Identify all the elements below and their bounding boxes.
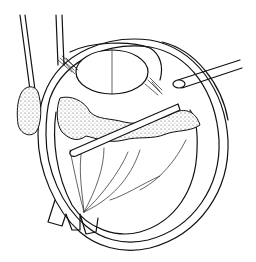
vitreous-base-stippled bbox=[57, 97, 200, 141]
surgical-probe-left-2 bbox=[56, 15, 64, 65]
sponge-tip bbox=[17, 87, 41, 135]
illustration-canvas bbox=[0, 0, 256, 262]
eye-surgery-illustration bbox=[0, 0, 256, 262]
surgical-probe-left-1 bbox=[20, 15, 35, 90]
